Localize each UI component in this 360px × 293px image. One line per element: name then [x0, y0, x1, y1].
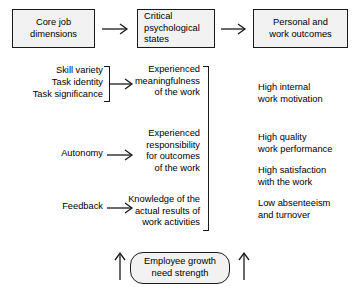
bracket-psychological-states-group — [203, 66, 209, 231]
arrow-right-icon-states-to-outcomes — [219, 21, 251, 37]
core-dimension-task-identity: Task identity — [6, 77, 103, 89]
header-box-core-job-dimensions: Core job dimensions — [12, 9, 95, 48]
core-dimension-skill-variety: Skill variety — [6, 65, 103, 77]
job-characteristics-model-diagram: Core job dimensions Critical psychologic… — [0, 0, 360, 293]
header-box-personal-and-work-outcomes: Personal and work outcomes — [253, 9, 348, 48]
psychological-state-knowledge-of-results: Knowledge of the actual results of work … — [119, 194, 200, 229]
psychological-state-experienced-meaningfulness: Experienced meaningfulness of the work — [123, 64, 200, 99]
outcome-low-absenteeism-and-turnover: Low absenteeism and turnover — [258, 198, 358, 221]
core-dimension-feedback: Feedback — [6, 201, 103, 213]
arrow-right-icon-core-to-states — [100, 21, 134, 37]
arrow-up-icon-right-moderator — [236, 251, 252, 281]
outcome-high-satisfaction-with-the-work: High satisfaction with the work — [258, 165, 358, 188]
outcome-high-internal-work-motivation: High internal work motivation — [258, 82, 358, 105]
header-box-core-job-dimensions-label: Core job dimensions — [30, 17, 77, 40]
psychological-state-experienced-responsibility: Experienced responsibility for outcomes … — [123, 128, 200, 174]
moderator-box-employee-growth-need-strength: Employee growth need strength — [130, 252, 230, 284]
header-box-critical-psychological-states-label: Critical psychological states — [144, 11, 200, 46]
moderator-box-label: Employee growth need strength — [144, 256, 216, 279]
outcome-high-quality-work-performance: High quality work performance — [258, 132, 358, 155]
header-box-critical-psychological-states: Critical psychological states — [137, 9, 215, 48]
core-dimension-autonomy: Autonomy — [6, 148, 103, 160]
header-box-personal-and-work-outcomes-label: Personal and work outcomes — [269, 17, 332, 40]
arrow-up-icon-left-moderator — [112, 251, 128, 281]
core-dimension-task-significance: Task significance — [6, 89, 103, 101]
